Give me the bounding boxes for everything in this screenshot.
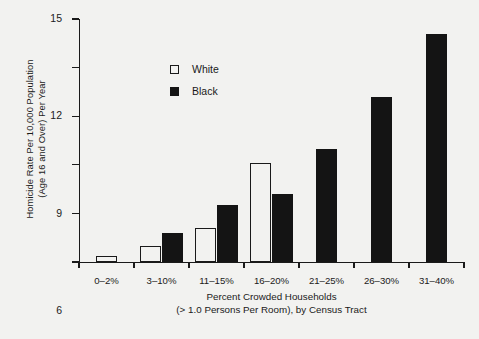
- x-axis-title-line2: (> 1.0 Persons Per Room), by Census Trac…: [79, 303, 464, 316]
- y-tick: 6: [72, 164, 79, 165]
- y-tick: 3: [72, 213, 79, 214]
- y-tick: 9: [72, 116, 79, 117]
- legend-label-black: Black: [192, 85, 218, 97]
- y-tick: 12: [72, 67, 79, 68]
- legend-label-white: White: [192, 63, 219, 75]
- legend-item-white: White: [170, 58, 219, 80]
- bar-black: [162, 233, 183, 262]
- bar-white: [96, 256, 117, 262]
- y-tick-label: 12: [50, 109, 62, 121]
- bar-white: [195, 228, 216, 262]
- legend-swatch-white-icon: [170, 65, 179, 74]
- y-axis-title-line1: Homicide Rate Per 10,000 Population: [25, 59, 37, 218]
- x-axis-title: Percent Crowded Households (> 1.0 Person…: [79, 290, 464, 316]
- x-tick: [463, 262, 464, 268]
- x-tick-label: 16–20%: [254, 275, 289, 286]
- x-tick-label: 3–10%: [147, 275, 177, 286]
- x-tick-label: 0–2%: [94, 275, 119, 286]
- x-tick-label: 11–15%: [199, 275, 234, 286]
- x-tick: [353, 262, 354, 268]
- x-tick: [78, 262, 79, 268]
- y-tick: 15: [72, 18, 79, 19]
- bar-black: [371, 97, 392, 262]
- y-tick-label: 9: [56, 207, 62, 219]
- x-axis-title-line1: Percent Crowded Households: [79, 290, 464, 303]
- x-tick: [243, 262, 244, 268]
- x-tick: [408, 262, 409, 268]
- plot-area: 03691215 0–2%3–10%11–15%16–20%21–25%26–3…: [79, 19, 464, 262]
- y-axis-title-line2: (Age 16 and Over) Per Year: [36, 59, 48, 218]
- bar-black: [316, 149, 337, 262]
- x-tick: [298, 262, 299, 268]
- legend: White Black: [170, 58, 219, 102]
- bar-black: [217, 205, 238, 262]
- y-tick-label: 15: [50, 12, 62, 24]
- bar-white: [140, 246, 161, 262]
- x-axis-line: [79, 262, 464, 263]
- legend-item-black: Black: [170, 80, 219, 102]
- bar-white: [250, 163, 271, 262]
- bar-black: [272, 194, 293, 262]
- y-axis-line: [79, 19, 80, 262]
- legend-swatch-black-icon: [170, 87, 179, 96]
- x-tick: [188, 262, 189, 268]
- y-tick-label: 6: [56, 304, 62, 316]
- x-tick-label: 26–30%: [364, 275, 399, 286]
- x-tick-label: 31–40%: [419, 275, 454, 286]
- x-tick: [133, 262, 134, 268]
- chart-figure: Homicide Rate Per 10,000 Population (Age…: [0, 0, 479, 339]
- bar-black: [426, 34, 447, 262]
- x-tick-label: 21–25%: [309, 275, 344, 286]
- y-axis-title: Homicide Rate Per 10,000 Population (Age…: [14, 10, 58, 268]
